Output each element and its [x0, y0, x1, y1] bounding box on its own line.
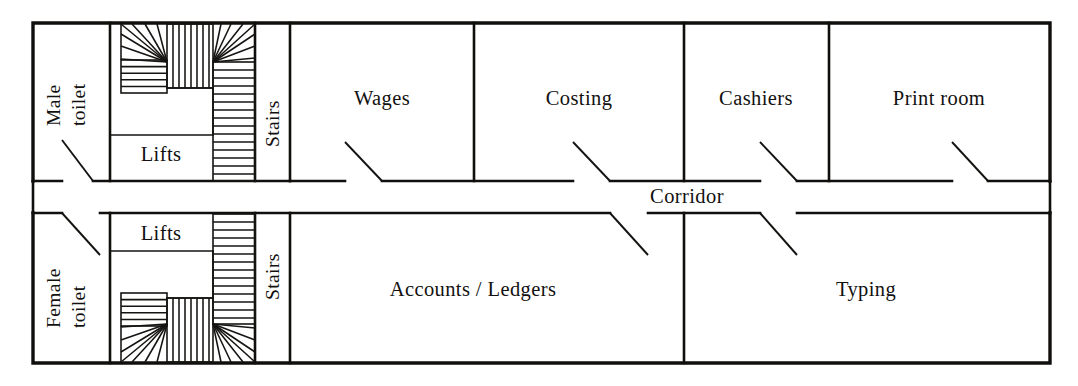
floor-plan-svg: Male toilet Female toilet Lifts Lifts St… [0, 0, 1078, 386]
door-costing [573, 142, 610, 181]
door-typing [760, 213, 797, 255]
label-wages: Wages [354, 87, 410, 110]
upper-stair-right-winder [213, 24, 255, 62]
label-female-toilet-line1: Female [43, 268, 64, 328]
label-corridor: Corridor [650, 185, 724, 207]
upper-stair-top-flight [167, 24, 213, 88]
label-male-toilet-line1: Male [43, 84, 64, 126]
label-stairs-upper: Stairs [262, 100, 283, 147]
label-stairs-lower: Stairs [262, 253, 283, 300]
upper-stair-right-flight [213, 62, 255, 181]
label-accounts-ledgers: Accounts / Ledgers [390, 278, 557, 301]
floor-plan-diagram: Male toilet Female toilet Lifts Lifts St… [0, 0, 1078, 386]
label-cashiers: Cashiers [719, 87, 793, 109]
label-print-room: Print room [893, 87, 985, 109]
label-male-toilet-line2: toilet [68, 83, 89, 126]
door-female-toilet [62, 213, 100, 255]
door-male-toilet [62, 140, 93, 181]
upper-stair-core [110, 24, 255, 181]
label-lifts-upper: Lifts [141, 143, 182, 165]
label-lifts-lower: Lifts [141, 222, 182, 244]
lower-stair-left-winder [121, 324, 167, 362]
lower-stair-right-flight [213, 214, 255, 324]
door-group [62, 140, 988, 255]
upper-stair-left-flight [121, 60, 167, 93]
door-wages [345, 142, 382, 181]
door-cashiers [760, 142, 797, 181]
door-accounts-ledgers [610, 213, 648, 255]
label-female-toilet-line2: toilet [68, 285, 89, 328]
label-costing: Costing [546, 87, 613, 110]
door-print-room [952, 142, 988, 181]
lower-stair-right-winder [213, 324, 255, 362]
lower-stair-left-flight [121, 293, 167, 326]
lower-stair-core [110, 214, 255, 362]
corridor-walls [33, 181, 1050, 213]
lower-stair-bottom-flight [167, 298, 213, 362]
upper-stair-left-winder [121, 24, 167, 62]
label-typing: Typing [836, 278, 896, 301]
